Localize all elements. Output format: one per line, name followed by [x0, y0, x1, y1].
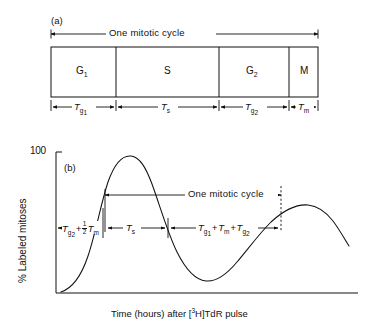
- interval-label-tm: Tm: [298, 102, 309, 114]
- panel-a-phase-boxes: [51, 47, 318, 97]
- figure-canvas: [0, 0, 366, 329]
- annotation-s-phase: Ts: [126, 223, 135, 235]
- interval-label-tg1: Tg1: [74, 102, 87, 117]
- interval-label-tg2: Tg2: [245, 102, 258, 117]
- annotation-remainder: Tg1 + Tm + Tg2: [198, 223, 250, 238]
- figure-root: (a) One mitotic cycle G1 S G2 M Tg1 Ts T…: [0, 0, 366, 329]
- interval-label-ts: Ts: [161, 102, 170, 114]
- panel-a-interval-arrows: [51, 100, 318, 112]
- annotation-lead-in: Tg2 + 12 Tm: [62, 221, 99, 239]
- panel-b-cycle-label: One mitotic cycle: [188, 189, 264, 199]
- phase-label-g1: G1: [76, 66, 88, 78]
- phase-label-g2: G2: [246, 66, 258, 78]
- panel-b-tag: (b): [64, 163, 76, 173]
- x-axis-title: Time (hours) after [3H]TdR pulse: [111, 308, 248, 319]
- phase-label-s: S: [164, 66, 171, 76]
- phase-label-m: M: [300, 66, 308, 76]
- y-axis-tick-100: 100: [30, 146, 46, 156]
- panel-a-cycle-label: One mitotic cycle: [109, 28, 185, 38]
- panel-a-tag: (a): [51, 16, 63, 26]
- y-axis-title: % Labeled mitoses: [18, 199, 28, 284]
